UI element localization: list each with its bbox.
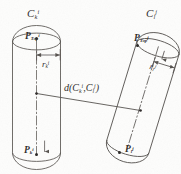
capsule-right-outline — [102, 27, 181, 168]
dot-left-bottom — [35, 153, 38, 156]
capsule-left-top-point-label: PTopi — [25, 32, 40, 42]
capsule-right-name: Clj — [146, 8, 157, 19]
capsule-right-bottom-point-label: Plj — [125, 145, 134, 155]
dot-right-bottom — [118, 151, 121, 154]
distance-segment — [37, 94, 141, 111]
distance-label: d(Cki,Clj) — [64, 83, 99, 93]
dot-right-top — [136, 44, 139, 47]
capsule-left-radius-measure — [37, 50, 61, 61]
capsule-left-bottom-point-label: Pki — [24, 146, 34, 156]
capsule-right-top-point-label: PTopj — [134, 34, 149, 44]
capsule-distance-figure: Cki Clj PTopi Pki rki PTopj Plj rlj d(Ck… — [0, 0, 181, 174]
capsule-left-radius-label: rki — [42, 60, 49, 69]
capsule-left-name: Cki — [27, 8, 39, 19]
